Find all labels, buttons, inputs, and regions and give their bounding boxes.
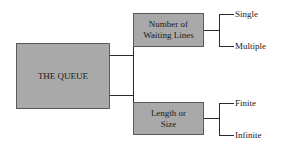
leaf-finite: Finite (235, 98, 256, 108)
bracket1-top-arm (219, 14, 234, 15)
leaf-single: Single (235, 9, 258, 19)
bracket1-bottom-arm (219, 46, 234, 47)
bracket2-vertical (219, 103, 220, 136)
branch-label-line2: Size (161, 119, 177, 129)
connector-root-vertical (133, 47, 134, 102)
bracket1-vertical (219, 14, 220, 47)
leaf-multiple: Multiple (235, 41, 266, 51)
bracket2-top-arm (219, 103, 234, 104)
leaf-infinite: Infinite (235, 130, 262, 140)
bracket1-stem (204, 30, 219, 31)
branch-label-line1: Length or (151, 108, 186, 118)
branch-label-line2: Waiting Lines (143, 30, 194, 40)
branch-box-waiting-lines: Number of Waiting Lines (133, 13, 204, 47)
connector-root-upper (110, 55, 133, 56)
branch-label-waiting-lines: Number of Waiting Lines (143, 19, 194, 41)
bracket2-stem (204, 118, 219, 119)
branch-label-line1: Number of (149, 19, 188, 29)
bracket2-bottom-arm (219, 135, 234, 136)
root-box-the-queue: THE QUEUE (16, 43, 110, 109)
branch-box-length-size: Length or Size (133, 102, 204, 135)
root-label: THE QUEUE (38, 71, 88, 82)
connector-root-lower (110, 95, 133, 96)
branch-label-length-size: Length or Size (151, 108, 186, 130)
